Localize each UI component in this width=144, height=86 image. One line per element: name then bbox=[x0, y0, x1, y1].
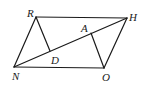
segment-on bbox=[14, 67, 104, 68]
diagonal-nh bbox=[14, 18, 127, 67]
geometry-diagram: R H A D N O bbox=[0, 0, 144, 86]
label-o: O bbox=[102, 71, 110, 83]
label-h: H bbox=[128, 11, 138, 23]
label-r: R bbox=[26, 7, 34, 19]
segment-rh bbox=[36, 17, 127, 18]
label-n: N bbox=[11, 70, 20, 82]
segment-rd bbox=[36, 17, 50, 51]
label-d: D bbox=[50, 54, 59, 66]
label-a: A bbox=[80, 22, 88, 34]
segment-oa bbox=[91, 33, 104, 68]
segment-ho bbox=[104, 18, 127, 68]
